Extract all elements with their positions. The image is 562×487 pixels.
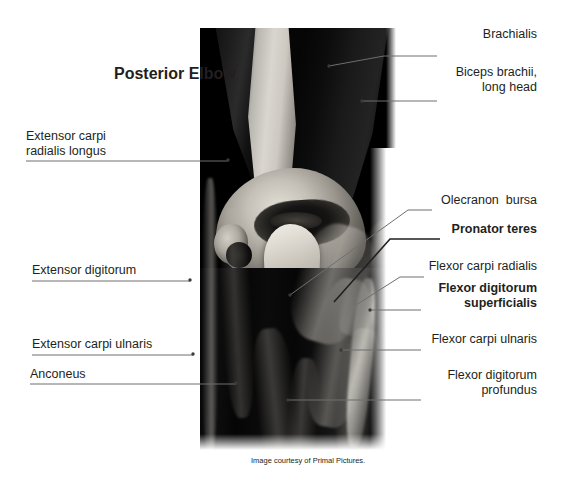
page-title: Posterior Elbow [114, 63, 236, 84]
label-anconeus: Anconeus [30, 367, 86, 382]
image-credit-caption: Image courtesy of Primal Pictures. [251, 456, 365, 465]
label-flexor-digitorum-profundus: Flexor digitorum profundus [447, 368, 537, 398]
posterior-elbow-photograph [200, 28, 396, 450]
label-flexor-digitorum-superficialis: Flexor digitorum superficialis [438, 281, 537, 311]
label-extensor-digitorum: Extensor digitorum [32, 263, 136, 278]
label-pronator-teres: Pronator teres [452, 222, 537, 237]
label-flexor-carpi-radialis: Flexor carpi radialis [429, 259, 537, 274]
anatomy-figure: Posterior Elbow Extensor carpi radialis … [0, 0, 562, 487]
label-extensor-carpi-radialis-longus: Extensor carpi radialis longus [26, 129, 106, 159]
label-biceps-brachii-long-head: Biceps brachii, long head [456, 65, 537, 95]
label-olecranon-bursa: Olecranon bursa [441, 193, 537, 208]
label-brachialis: Brachialis [483, 27, 537, 42]
label-flexor-carpi-ulnaris: Flexor carpi ulnaris [431, 332, 537, 347]
label-extensor-carpi-ulnaris: Extensor carpi ulnaris [32, 337, 152, 352]
